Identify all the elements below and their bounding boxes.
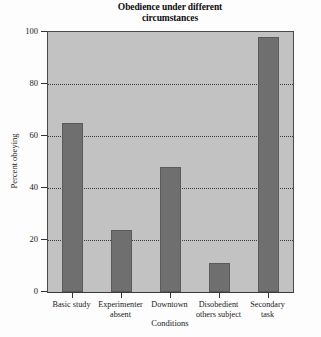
chart-figure: Obedience under different circumstances … [0, 0, 321, 337]
y-axis-tick [41, 291, 47, 292]
gridline [48, 84, 293, 85]
y-axis-tick [41, 135, 47, 136]
y-axis-tick-label: 100 [0, 26, 38, 36]
x-axis-tick [219, 292, 220, 298]
y-axis-tick [41, 83, 47, 84]
y-axis-tick-label: 60 [0, 130, 38, 140]
x-axis-tick-label: Secondarytask [239, 300, 296, 319]
bar [258, 37, 279, 292]
bar [62, 123, 83, 292]
bar [111, 230, 132, 292]
x-axis-tick [72, 292, 73, 298]
chart-title: Obedience under different circumstances [47, 2, 293, 24]
bar [160, 167, 181, 292]
bar [209, 263, 230, 292]
x-axis-tick [268, 292, 269, 298]
y-axis-label: Percent obeying [9, 96, 19, 226]
x-axis-tick [170, 292, 171, 298]
x-axis-tick [121, 292, 122, 298]
y-axis-tick-label: 40 [0, 182, 38, 192]
plot-area [47, 31, 294, 293]
y-axis-tick [41, 239, 47, 240]
y-axis-tick-label: 80 [0, 78, 38, 88]
x-axis-tick-label-line: Secondary [239, 300, 296, 310]
chart-title-line-1: Obedience under different [47, 2, 293, 13]
chart-title-line-2: circumstances [47, 13, 293, 24]
gridline [48, 136, 293, 137]
x-axis-label: Conditions [47, 318, 293, 328]
y-axis-tick [41, 187, 47, 188]
y-axis-tick [41, 31, 47, 32]
y-axis-tick-label: 20 [0, 234, 38, 244]
y-axis-tick-label: 0 [0, 286, 38, 296]
